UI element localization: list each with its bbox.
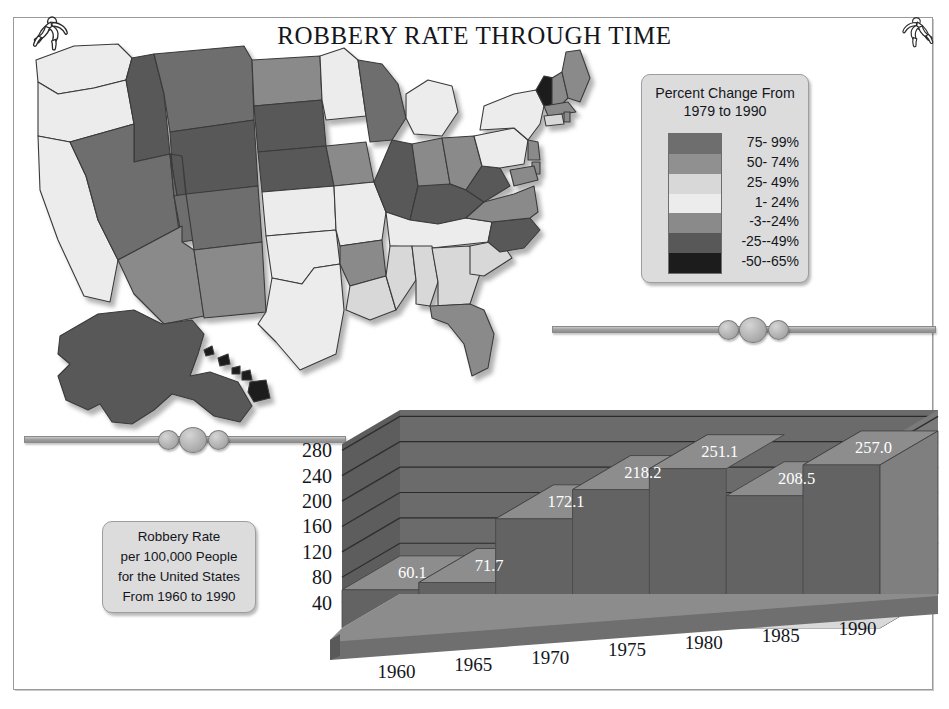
state-fl	[430, 304, 494, 376]
state-ct	[544, 114, 564, 126]
legend-label-0: 75- 99%	[724, 133, 804, 153]
chart-xtick-0: 1960	[377, 661, 415, 682]
map-legend: Percent Change From 1979 to 1990 75- 99%…	[641, 74, 809, 283]
chart-ytick-left-4: 120	[302, 541, 332, 563]
legend-title: Percent Change From 1979 to 1990	[642, 84, 808, 120]
state-nc	[488, 218, 540, 252]
state-mt	[154, 46, 254, 132]
legend-label-4: -3--24%	[724, 212, 804, 232]
caption-line-1: Robbery Rate	[118, 527, 240, 547]
infographic-poster: ROBBERY RATE THROUGH TIME	[0, 0, 949, 709]
legend-swatches	[668, 133, 722, 274]
chart-base-slab-left	[330, 634, 340, 660]
legend-title-line1: Percent Change From	[655, 85, 795, 101]
legend-swatch-1	[669, 154, 721, 174]
state-ia	[326, 142, 374, 186]
chart-value-label-3: 218.2	[624, 463, 661, 482]
legend-label-1: 50- 74%	[724, 153, 804, 173]
chart-value-label-0: 60.1	[398, 563, 427, 582]
state-pa	[474, 128, 528, 168]
divider-knob-small-right	[208, 430, 229, 450]
divider-knob-small-left	[158, 430, 179, 450]
state-nm	[194, 242, 266, 318]
chart-ytick-left-5: 80	[312, 566, 332, 588]
chart-xtick-1: 1965	[454, 654, 492, 675]
state-md	[510, 166, 538, 186]
state-ak	[58, 310, 252, 424]
chart-xtick-2: 1970	[531, 647, 569, 668]
chart-ytick-left-6: 40	[312, 592, 332, 614]
divider-knob-small-left	[718, 320, 739, 340]
state-nd	[252, 56, 322, 106]
chart-xtick-4: 1980	[685, 632, 723, 653]
caption-line-3: for the United States	[118, 567, 240, 587]
legend-swatch-3	[669, 194, 721, 214]
chart-xtick-5: 1985	[762, 625, 800, 646]
divider-knob-large	[739, 317, 767, 343]
legend-label-2: 25- 49%	[724, 173, 804, 193]
legend-swatch-0	[669, 134, 721, 154]
robbery-rate-chart: 60.171.7172.1218.2251.1208.5257.02802402…	[290, 432, 940, 697]
divider-knob-large	[179, 427, 207, 453]
chart-ytick-left-1: 240	[302, 465, 332, 487]
chart-ytick-left-0: 280	[302, 439, 332, 461]
legend-label-6: -50--65%	[724, 252, 804, 272]
chart-xtick-3: 1975	[608, 639, 646, 660]
chart-caption-box: Robbery Rate per 100,000 People for the …	[102, 521, 256, 613]
state-mi	[406, 80, 458, 136]
state-sd	[254, 100, 326, 152]
caption-line-2: per 100,000 People	[118, 547, 240, 567]
chart-value-label-2: 172.1	[547, 492, 584, 511]
divider-knob-small-right	[768, 320, 789, 340]
legend-title-line2: 1979 to 1990	[642, 102, 808, 120]
chart-value-label-5: 208.5	[778, 469, 815, 488]
legend-swatch-5	[669, 233, 721, 253]
state-ri	[564, 112, 570, 122]
chart-ytick-left-2: 200	[302, 490, 332, 512]
state-wi	[358, 60, 406, 142]
state-ks	[262, 186, 336, 236]
legend-swatch-4	[669, 213, 721, 233]
legend-swatch-2	[669, 174, 721, 194]
chart-ytick-left-3: 160	[302, 515, 332, 537]
legend-label-5: -25--49%	[724, 232, 804, 252]
legend-swatch-6	[669, 253, 721, 273]
state-nj	[528, 140, 540, 160]
state-wy	[170, 120, 258, 196]
ornamental-divider-bar	[552, 317, 936, 341]
chart-caption-text: Robbery Rate per 100,000 People for the …	[118, 527, 240, 607]
legend-labels: 75- 99%50- 74%25- 49%1- 24%-3--24%-25--4…	[724, 133, 804, 272]
chart-value-label-4: 251.1	[701, 442, 738, 461]
us-choropleth-map	[14, 24, 614, 434]
state-co	[186, 186, 262, 250]
chart-value-label-6: 257.0	[855, 438, 892, 457]
state-mn	[320, 48, 366, 120]
chart-xtick-6: 1990	[839, 618, 877, 639]
caption-line-4: From 1960 to 1990	[118, 587, 240, 607]
state-ne	[258, 146, 334, 192]
legend-label-3: 1- 24%	[724, 193, 804, 213]
chart-value-label-1: 71.7	[475, 556, 504, 575]
